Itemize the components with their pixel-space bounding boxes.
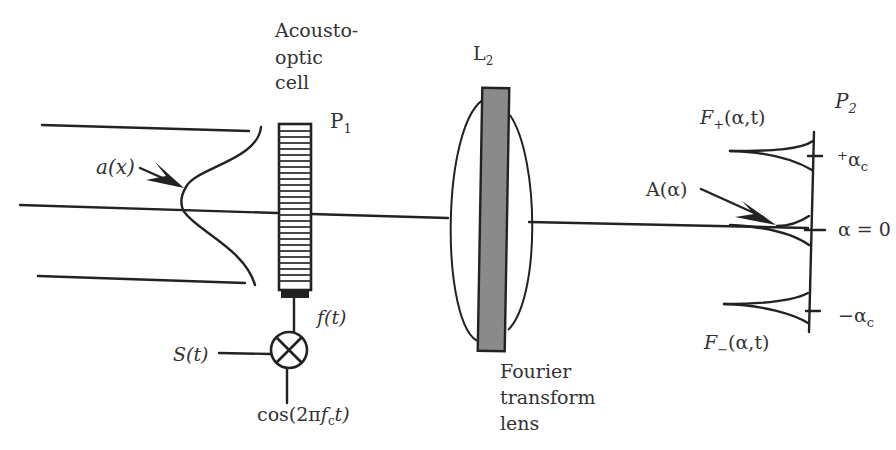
mixer-icon <box>271 332 307 368</box>
zero-label: α = 0 <box>838 218 891 240</box>
p1-label: P1 <box>330 109 352 136</box>
beam-top-line <box>42 125 249 131</box>
optical-axis-middle <box>311 214 448 218</box>
aalpha-arrowhead-icon <box>735 201 776 225</box>
optical-axis-left <box>20 205 277 213</box>
fourier-lens <box>451 88 533 351</box>
st-input-wire <box>219 353 271 354</box>
p2-label: P2 <box>834 89 857 116</box>
st-label: S(t) <box>173 343 208 365</box>
carrier-label: cos(2πfct) <box>257 403 350 428</box>
cell-label-line3: cell <box>275 71 309 93</box>
fplus-label: F+(α,t) <box>699 106 765 132</box>
acousto-optic-cell <box>279 124 311 298</box>
ax-arrowhead-icon <box>146 162 184 188</box>
lens-label-line1: Fourier <box>500 360 572 382</box>
beam-bottom-line <box>38 276 245 283</box>
a-upper <box>777 216 809 226</box>
l2-label: L2 <box>473 42 493 68</box>
gaussian-profile <box>181 127 261 285</box>
fplus-upper <box>730 141 813 151</box>
output-plane-line <box>809 132 814 332</box>
ft-label: f(t) <box>315 306 347 328</box>
lens-label-line3: lens <box>500 412 539 434</box>
ax-label: a(x) <box>96 155 135 179</box>
fminus-upper <box>724 293 808 304</box>
minus-ac-label: −αc <box>838 304 874 330</box>
cell-label-line1: Acousto- <box>274 19 358 41</box>
diagram-canvas: Acousto- optic cell P1 a(x) f(t) S(t) co… <box>0 0 896 450</box>
fminus-label: F−(α,t) <box>703 331 769 357</box>
fplus-lower <box>730 151 812 170</box>
fminus-lower <box>724 304 808 323</box>
aalpha-label: A(α) <box>645 178 687 200</box>
plus-ac-label: +αc <box>837 148 868 174</box>
cell-label-line2: optic <box>275 46 323 68</box>
lens-label-line2: transform <box>500 386 596 408</box>
